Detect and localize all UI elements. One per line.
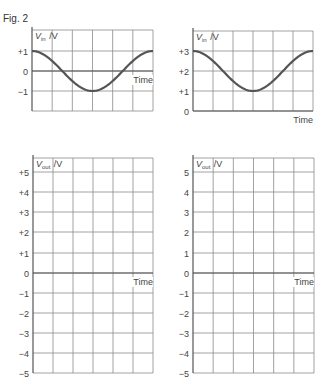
y-tick-label: 4 bbox=[184, 188, 189, 198]
y-tick-label: −2 bbox=[179, 309, 189, 319]
chart-vin-2: +3+2+10Vin /VTime bbox=[179, 28, 313, 125]
y-tick-label: +1 bbox=[19, 249, 29, 259]
chart-vout-1: +5+4+3+2+10−1−2−3−4−5Vout /VTime bbox=[19, 155, 153, 379]
y-tick-label: 5 bbox=[184, 168, 189, 178]
y-tick-label: −5 bbox=[179, 369, 189, 379]
y-tick-label: +1 bbox=[179, 87, 189, 97]
y-tick-label: +5 bbox=[19, 168, 29, 178]
y-tick-label: 0 bbox=[23, 67, 28, 77]
y-tick-label: +3 bbox=[179, 47, 189, 57]
y-tick-label: −1 bbox=[19, 289, 29, 299]
y-tick-label: −4 bbox=[19, 349, 29, 359]
y-axis-label: Vin /V bbox=[196, 32, 219, 43]
chart-vout-2: 543210−1−2−3−4−5Vout /VTime bbox=[179, 155, 314, 379]
y-tick-label: 0 bbox=[184, 107, 189, 117]
figure-canvas: +10−1Vin /VTime+3+2+10Vin /VTime+5+4+3+2… bbox=[0, 0, 333, 389]
y-tick-label: +4 bbox=[19, 188, 29, 198]
y-tick-label: +2 bbox=[179, 67, 189, 77]
y-tick-label: −3 bbox=[19, 329, 29, 339]
y-tick-label: −4 bbox=[179, 349, 189, 359]
y-tick-label: 0 bbox=[24, 269, 29, 279]
y-tick-label: 0 bbox=[184, 269, 189, 279]
y-tick-label: −1 bbox=[179, 289, 189, 299]
y-axis-label: Vout /V bbox=[36, 159, 62, 170]
y-axis-label: Vin /V bbox=[35, 31, 58, 42]
y-tick-label: 3 bbox=[184, 208, 189, 218]
y-tick-label: −2 bbox=[19, 309, 29, 319]
x-axis-label: Time bbox=[293, 115, 313, 125]
y-axis-label: Vout /V bbox=[196, 159, 222, 170]
y-tick-label: +2 bbox=[19, 228, 29, 238]
y-tick-label: 1 bbox=[184, 249, 189, 259]
y-tick-label: +3 bbox=[19, 208, 29, 218]
x-axis-label: Time bbox=[133, 75, 153, 85]
x-axis-label: Time bbox=[133, 277, 153, 287]
x-axis-label: Time bbox=[294, 277, 314, 287]
chart-vin-1: +10−1Vin /VTime bbox=[18, 27, 153, 111]
y-tick-label: 2 bbox=[184, 228, 189, 238]
y-tick-label: +1 bbox=[18, 47, 28, 57]
y-tick-label: −1 bbox=[18, 87, 28, 97]
y-tick-label: −3 bbox=[179, 329, 189, 339]
y-tick-label: −5 bbox=[19, 369, 29, 379]
